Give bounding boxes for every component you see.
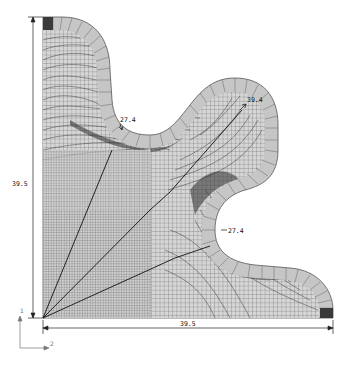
radius-lobe-peak-label: 39.4: [247, 96, 263, 104]
dimension-width-label: 39.5: [180, 320, 196, 328]
axes-triad: [18, 316, 49, 350]
corner-element-right: [320, 308, 333, 318]
radius-lower-valley-label: 27.4: [228, 227, 244, 235]
radius-upper-valley-label: 27.4: [120, 116, 136, 124]
dimension-height-label: 39.5: [12, 180, 28, 188]
dimension-height: [28, 17, 43, 318]
fe-mesh-figure: 39.5 39.5 27.4 39.4 27.4 1 2: [0, 0, 350, 367]
axis-2-label: 2: [50, 340, 54, 347]
axis-1-label: 1: [20, 307, 24, 314]
corner-element-top: [43, 17, 53, 30]
